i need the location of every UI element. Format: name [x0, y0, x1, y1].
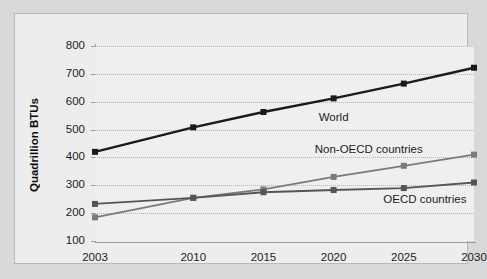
y-tick-label: 700 [66, 68, 85, 79]
series-marker [401, 163, 407, 169]
y-tick-label: 400 [66, 151, 85, 162]
y-tick-label: 500 [66, 124, 85, 135]
series-marker [190, 195, 196, 201]
series-label: OECD countries [383, 193, 466, 205]
y-tick-label: 200 [66, 207, 85, 218]
series-marker [260, 189, 266, 195]
series-label: Non-OECD countries [315, 143, 423, 155]
series-marker [471, 152, 477, 158]
series-marker [401, 185, 407, 191]
series-marker [331, 174, 337, 180]
series-line [95, 155, 474, 218]
series-marker [92, 214, 98, 220]
series-marker [260, 109, 266, 115]
series-marker [471, 65, 477, 71]
series-label: World [319, 111, 349, 123]
x-axis-line [95, 242, 476, 243]
series-marker [92, 201, 98, 207]
series-marker [331, 95, 337, 101]
x-tick-label: 2015 [251, 251, 277, 263]
series-marker [401, 81, 407, 87]
chart-frame: Quadrillion BTUs 10020030040050060070080… [14, 13, 468, 264]
x-tick-label: 2025 [391, 251, 417, 263]
plot-area: WorldNon-OECD countriesOECD countries [95, 46, 474, 241]
x-tick-label: 2010 [180, 251, 206, 263]
series-marker [92, 149, 98, 155]
series-marker [331, 187, 337, 193]
x-tick-label: 2020 [321, 251, 347, 263]
y-tick-label: 300 [66, 179, 85, 190]
y-axis-title: Quadrillion BTUs [28, 70, 44, 220]
x-tick-label: 2030 [461, 251, 487, 263]
series-line [95, 68, 474, 152]
y-tick-label: 100 [66, 235, 85, 246]
y-tick-label: 800 [66, 40, 85, 51]
x-tick-label: 2003 [82, 251, 108, 263]
series-marker [190, 124, 196, 130]
series-marker [471, 180, 477, 186]
y-tick-label: 600 [66, 96, 85, 107]
